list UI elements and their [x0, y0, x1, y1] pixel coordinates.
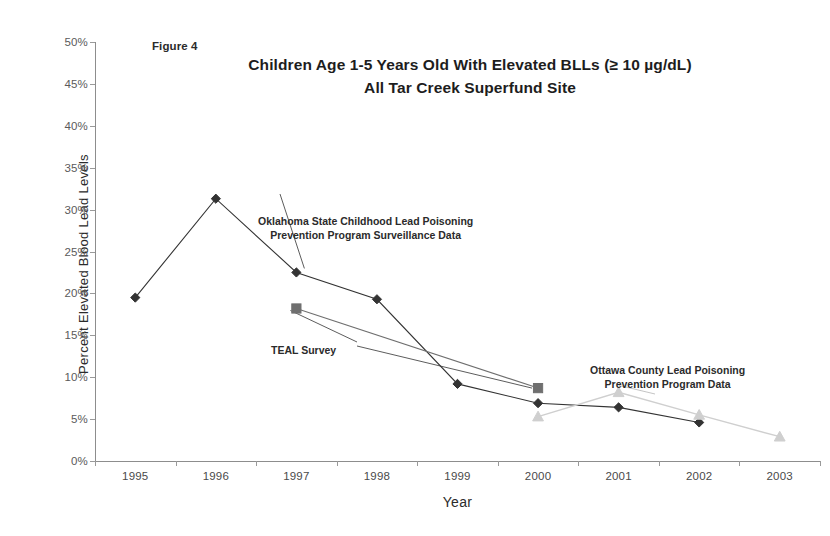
- annotation-ottawa: Ottawa County Lead Poisoning Prevention …: [590, 363, 745, 391]
- annotation-oklahoma-line-2: Prevention Program Surveillance Data: [258, 228, 473, 242]
- x-tick-label: 1995: [122, 470, 148, 482]
- x-tick-mark: [498, 461, 499, 466]
- x-tick-mark: [739, 461, 740, 466]
- y-tick-label: 10%: [40, 371, 88, 383]
- x-tick-label: 1997: [283, 470, 309, 482]
- x-tick-label: 2003: [767, 470, 793, 482]
- x-tick-label: 1996: [203, 470, 229, 482]
- y-tick-label: 40%: [40, 120, 88, 132]
- data-point-diamond: [533, 399, 542, 408]
- annotation-ottawa-line-1: Ottawa County Lead Poisoning: [590, 363, 745, 377]
- y-tick-label: 0%: [40, 455, 88, 467]
- x-tick-mark: [417, 461, 418, 466]
- series-overlay: [95, 42, 820, 461]
- x-tick-label: 1998: [364, 470, 390, 482]
- x-axis-title: Year: [95, 494, 820, 510]
- x-tick-label: 1999: [444, 470, 470, 482]
- x-tick-mark: [337, 461, 338, 466]
- y-tick-label: 45%: [40, 78, 88, 90]
- y-tick-label: 5%: [40, 413, 88, 425]
- annotation-oklahoma-line-1: Oklahoma State Childhood Lead Poisoning: [258, 214, 473, 228]
- x-tick-mark: [659, 461, 660, 466]
- annotation-oklahoma: Oklahoma State Childhood Lead Poisoning …: [258, 214, 473, 242]
- figure-root: Figure 4 Children Age 1-5 Years Old With…: [0, 0, 830, 536]
- data-point-square: [533, 383, 542, 392]
- leader-line-teal-1997: [290, 310, 357, 342]
- x-axis-line: [95, 461, 820, 462]
- y-tick-label: 25%: [40, 246, 88, 258]
- y-tick-label: 15%: [40, 329, 88, 341]
- y-tick-label: 20%: [40, 287, 88, 299]
- x-tick-label: 2000: [525, 470, 551, 482]
- annotation-teal: TEAL Survey: [271, 343, 336, 357]
- x-tick-mark: [256, 461, 257, 466]
- y-tick-label: 30%: [40, 204, 88, 216]
- y-tick-label: 50%: [40, 36, 88, 48]
- x-tick-label: 2002: [686, 470, 712, 482]
- data-point-diamond: [614, 403, 623, 412]
- y-tick-label: 35%: [40, 162, 88, 174]
- x-tick-mark: [578, 461, 579, 466]
- data-point-square: [292, 304, 301, 313]
- x-tick-label: 2001: [605, 470, 631, 482]
- x-tick-mark: [820, 461, 821, 466]
- leader-line-teal-2000: [357, 346, 532, 388]
- x-tick-mark: [176, 461, 177, 466]
- annotation-ottawa-line-2: Prevention Program Data: [590, 377, 745, 391]
- plot-area: Percent Elevated Blood Lead Levels Year …: [95, 42, 820, 461]
- x-tick-mark: [95, 461, 96, 466]
